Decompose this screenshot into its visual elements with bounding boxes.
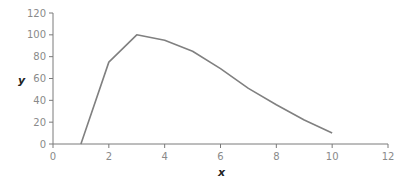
y-tick-label: 120 bbox=[27, 8, 46, 19]
y-tick-label: 80 bbox=[33, 51, 46, 62]
x-axis: 024681012 bbox=[50, 144, 395, 162]
x-tick-label: 2 bbox=[106, 151, 112, 162]
x-tick-label: 8 bbox=[273, 151, 279, 162]
x-axis-title: x bbox=[217, 166, 226, 179]
y-tick-label: 20 bbox=[33, 117, 46, 128]
y-axis: 020406080100120 bbox=[27, 8, 53, 150]
series-line bbox=[81, 35, 332, 144]
line-chart: 020406080100120 024681012 y x bbox=[0, 0, 405, 182]
x-tick-label: 0 bbox=[50, 151, 56, 162]
y-tick-label: 0 bbox=[40, 139, 46, 150]
y-tick-label: 40 bbox=[33, 95, 46, 106]
x-tick-label: 10 bbox=[326, 151, 339, 162]
x-tick-label: 4 bbox=[161, 151, 167, 162]
y-tick-label: 60 bbox=[33, 73, 46, 84]
x-tick-label: 12 bbox=[382, 151, 395, 162]
y-tick-label: 100 bbox=[27, 29, 46, 40]
data-series bbox=[81, 35, 332, 144]
x-tick-label: 6 bbox=[217, 151, 223, 162]
y-axis-title: y bbox=[18, 74, 26, 87]
